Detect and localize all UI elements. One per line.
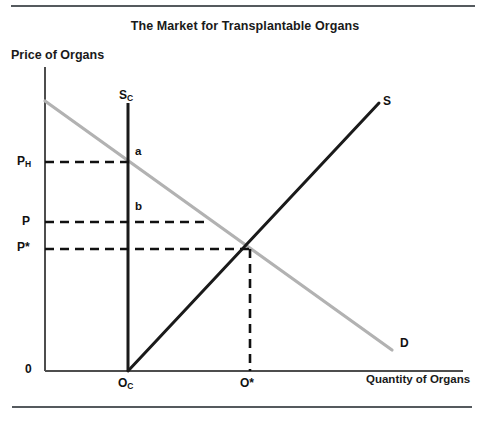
y-tick-label-price-high: PH	[17, 154, 31, 168]
origin-label: 0	[25, 362, 32, 376]
x-tick-label-quantity-constrained: OC	[118, 376, 133, 390]
supply-curve	[128, 103, 379, 371]
point-label-b: b	[135, 200, 142, 212]
chart-plot-area	[0, 0, 490, 421]
curve-label-supply: S	[383, 94, 391, 108]
demand-curve	[45, 101, 392, 350]
x-tick-label-quantity-equilibrium: O*	[240, 376, 254, 390]
curve-label-demand: D	[400, 336, 409, 350]
point-label-a: a	[135, 145, 141, 157]
figure-container: The Market for Transplantable Organs Pri…	[0, 0, 490, 421]
curve-label-constrained-supply: SC	[119, 88, 133, 102]
y-tick-label-price-legal: P	[22, 214, 30, 228]
y-tick-label-price-equilibrium: P*	[17, 240, 30, 254]
